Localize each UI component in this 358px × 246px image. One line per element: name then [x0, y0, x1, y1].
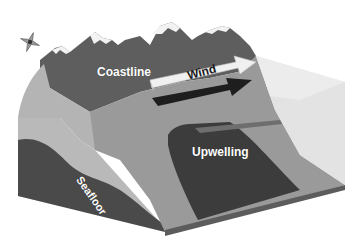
- upwelling-label: Upwelling: [192, 145, 249, 159]
- coastline-label: Coastline: [97, 65, 151, 79]
- compass-rose-icon: [17, 29, 43, 55]
- upwelling-diagram: Coastline Wind Upwelling Seafloor: [0, 0, 358, 246]
- block-diagram-graphic: [0, 0, 358, 246]
